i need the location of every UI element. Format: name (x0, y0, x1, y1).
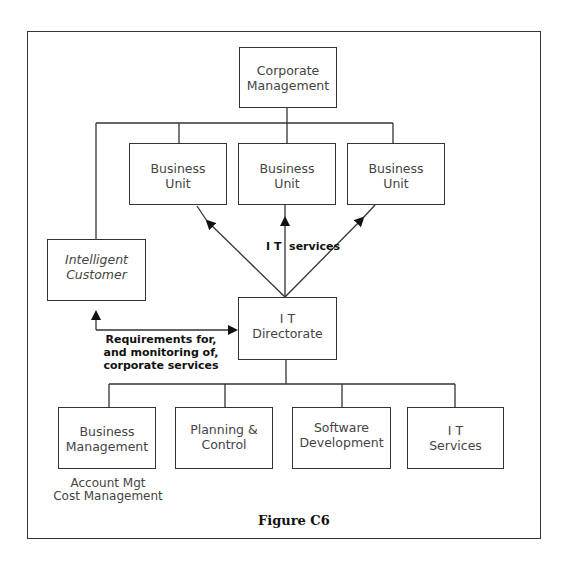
node-label: Business (259, 161, 314, 176)
label-line: Requirements for, (96, 333, 226, 346)
figure-caption: Figure C6 (258, 513, 330, 528)
label-line: and monitoring of, (96, 346, 226, 359)
software-development-box: Software Development (292, 407, 391, 469)
node-label: Unit (274, 176, 299, 191)
label-line: corporate services (96, 359, 226, 372)
corporate-management-box: Corporate Management (239, 47, 337, 108)
business-unit-box-2: Business Unit (238, 143, 336, 205)
node-label: Unit (383, 176, 408, 191)
business-management-box: Business Management (58, 407, 156, 469)
node-label: Intelligent (65, 252, 128, 267)
business-unit-box-3: Business Unit (347, 143, 445, 205)
node-label: Business (368, 161, 423, 176)
node-label: Corporate (257, 63, 320, 78)
node-label: Directorate (252, 326, 322, 341)
node-label: I T (448, 423, 463, 438)
node-label: Control (201, 437, 246, 452)
node-label: Development (299, 435, 383, 450)
business-unit-box-1: Business Unit (129, 143, 227, 205)
node-label: Management (247, 78, 329, 93)
business-management-subtext: Account Mgt Cost Management (47, 477, 169, 503)
node-label: Business (150, 161, 205, 176)
subtext-line: Cost Management (47, 490, 169, 503)
node-label: Management (66, 439, 148, 454)
node-label: Planning & (190, 422, 258, 437)
node-label: Software (314, 420, 369, 435)
requirements-label: Requirements for, and monitoring of, cor… (96, 333, 226, 372)
it-services-box: I T Services (407, 407, 504, 469)
node-label: Business (79, 424, 134, 439)
node-label: Unit (165, 176, 190, 191)
node-label: I T (280, 311, 295, 326)
intelligent-customer-box: Intelligent Customer (47, 239, 146, 301)
planning-control-box: Planning & Control (175, 407, 273, 469)
it-directorate-box: I T Directorate (238, 297, 337, 360)
node-label: Customer (66, 267, 127, 282)
it-services-label: I T services (266, 240, 340, 253)
node-label: Services (429, 438, 482, 453)
